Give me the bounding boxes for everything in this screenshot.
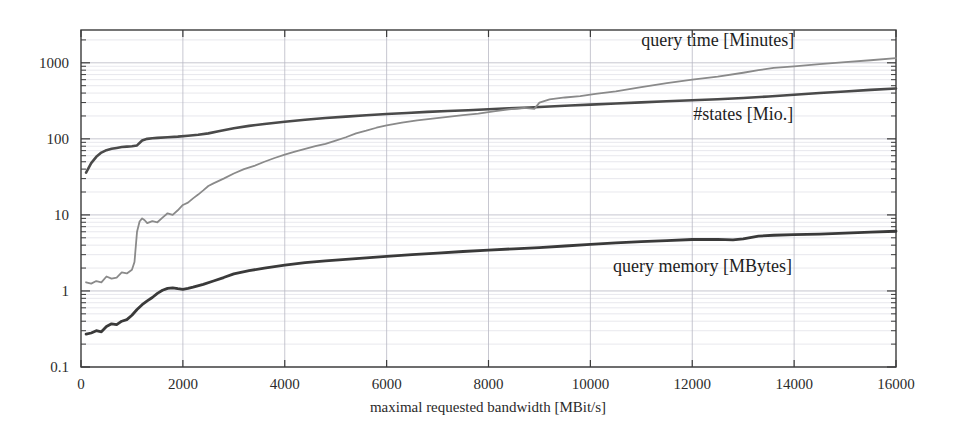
data-series-group <box>86 58 896 334</box>
x-axis-tick-labels: 0200040006000800010000120001400016000 <box>77 376 915 392</box>
x-tick-label: 14000 <box>775 376 813 392</box>
y-tick-label: 1 <box>62 283 70 299</box>
x-tick-label: 0 <box>77 376 85 392</box>
x-tick-label: 6000 <box>372 376 402 392</box>
x-tick-label: 8000 <box>474 376 504 392</box>
y-tick-label: 10 <box>54 207 69 223</box>
y-tick-label: 1000 <box>39 55 69 71</box>
y-tick-label: 100 <box>47 131 70 147</box>
series-line-states-mio <box>86 88 896 172</box>
chart-page: 0.11101001000 02000400060008000100001200… <box>0 0 962 442</box>
series-line-query-memory-mbytes <box>86 231 896 334</box>
y-axis-tick-labels: 0.11101001000 <box>39 55 69 375</box>
x-tick-label: 2000 <box>168 376 198 392</box>
series-annotation-query-memory-mbytes: query memory [MBytes] <box>613 256 792 276</box>
x-tick-label: 16000 <box>877 376 915 392</box>
y-tick-label: 0.1 <box>50 359 69 375</box>
x-tick-label: 10000 <box>572 376 610 392</box>
x-axis-title: maximal requested bandwidth [MBit/s] <box>370 399 606 415</box>
log-line-chart: 0.11101001000 02000400060008000100001200… <box>0 0 962 442</box>
series-annotation-states-mio: #states [Mio.] <box>693 104 793 124</box>
x-tick-label: 12000 <box>674 376 712 392</box>
series-annotation-query-time-minutes: query time [Minutes] <box>641 30 794 50</box>
x-tick-label: 4000 <box>270 376 300 392</box>
grid-major-lines <box>81 30 896 367</box>
